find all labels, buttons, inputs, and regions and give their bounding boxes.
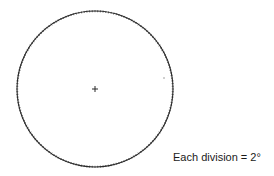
center-plus-icon xyxy=(92,86,98,92)
division-caption: Each division = 2° xyxy=(173,151,261,163)
graduated-circle-diagram xyxy=(0,0,274,176)
